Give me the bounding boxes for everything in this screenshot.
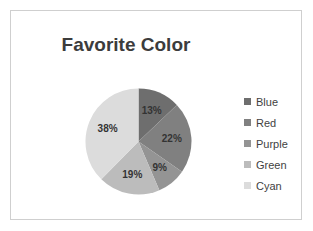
legend-swatch-icon [244, 182, 251, 189]
legend-swatch-icon [244, 98, 251, 105]
legend-item-red[interactable]: Red [244, 112, 313, 133]
legend-item-label: Blue [256, 96, 278, 108]
legend-item-cyan[interactable]: Cyan [244, 175, 313, 196]
legend-item-label: Green [256, 159, 287, 171]
pie-slice-label: 22% [162, 133, 182, 144]
legend-item-label: Red [256, 117, 276, 129]
chart-title: Favorite Color [11, 33, 241, 57]
chart-legend: Blue Red Purple Green Cyan [244, 91, 313, 196]
pie-chart[interactable]: 13%22%9%19%38% [85, 88, 192, 195]
legend-swatch-icon [244, 140, 251, 147]
pie-slice-label: 19% [122, 169, 142, 180]
legend-item-blue[interactable]: Blue [244, 91, 313, 112]
legend-item-label: Purple [256, 138, 288, 150]
legend-item-label: Cyan [256, 180, 282, 192]
legend-swatch-icon [244, 161, 251, 168]
pie-chart-svg: 13%22%9%19%38% [85, 88, 192, 195]
legend-item-green[interactable]: Green [244, 154, 313, 175]
slide-canvas: Favorite Color 13%22%9%19%38% Blue Red P… [0, 0, 313, 231]
legend-swatch-icon [244, 119, 251, 126]
slide-frame: Favorite Color 13%22%9%19%38% Blue Red P… [10, 10, 302, 220]
legend-item-purple[interactable]: Purple [244, 133, 313, 154]
pie-slice-label: 9% [152, 162, 167, 173]
pie-slice-label: 38% [98, 123, 118, 134]
pie-slice-label: 13% [142, 105, 162, 116]
